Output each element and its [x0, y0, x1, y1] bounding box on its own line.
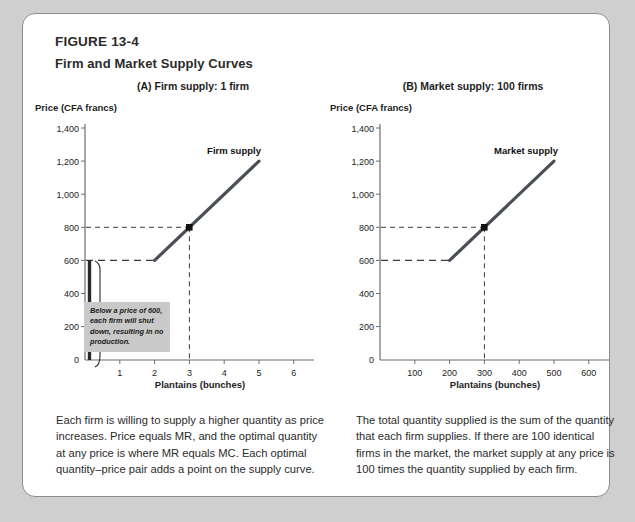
- svg-text:3: 3: [187, 368, 192, 378]
- panel-b-caption: The total quantity supplied is the sum o…: [356, 412, 618, 478]
- figure-number: FIGURE 13-4: [55, 34, 139, 49]
- panel-a-curve-label: Firm supply: [207, 145, 262, 156]
- panel-b-chart: 1,400 1,200 1,000 800 600 400 200 0: [324, 114, 624, 376]
- svg-text:800: 800: [359, 223, 374, 233]
- figure-card: FIGURE 13-4 Firm and Market Supply Curve…: [22, 13, 610, 497]
- svg-text:200: 200: [64, 322, 79, 332]
- svg-text:0: 0: [74, 355, 79, 365]
- panel-a-header: (A) Firm supply: 1 firm: [43, 80, 343, 92]
- svg-text:1,200: 1,200: [56, 157, 79, 167]
- panel-a-supply-curve: [155, 161, 259, 260]
- svg-text:100: 100: [407, 368, 422, 378]
- svg-text:4: 4: [222, 368, 227, 378]
- panel-a-note-box: Below a price of 600, each firm will shu…: [84, 302, 170, 352]
- panel-a-data-point: [186, 224, 193, 231]
- svg-text:200: 200: [442, 368, 457, 378]
- panel-a-y-axis-title: Price (CFA francs): [35, 102, 117, 113]
- svg-text:1,000: 1,000: [351, 190, 374, 200]
- svg-text:5: 5: [256, 368, 261, 378]
- svg-text:1,400: 1,400: [56, 124, 79, 134]
- svg-text:1,400: 1,400: [351, 124, 374, 134]
- figure-title: Firm and Market Supply Curves: [55, 56, 253, 71]
- panel-b-curve-label: Market supply: [494, 145, 559, 156]
- svg-text:200: 200: [359, 322, 374, 332]
- svg-text:1,200: 1,200: [351, 157, 374, 167]
- svg-text:6: 6: [291, 368, 296, 378]
- panel-b-y-axis-title: Price (CFA francs): [330, 102, 412, 113]
- svg-text:400: 400: [64, 289, 79, 299]
- svg-text:800: 800: [64, 223, 79, 233]
- panel-a-x-ticks: [120, 360, 294, 364]
- panel-a-x-axis-title: Plantains (bunches): [85, 379, 315, 390]
- panel-b-header: (B) Market supply: 100 firms: [323, 80, 623, 92]
- panel-b-x-ticks: [415, 360, 589, 364]
- panel-a-y-ticks: 1,400 1,200 1,000 800 600 400 200 0: [56, 124, 79, 366]
- svg-text:500: 500: [546, 368, 561, 378]
- svg-text:1: 1: [117, 368, 122, 378]
- svg-text:0: 0: [369, 355, 374, 365]
- svg-text:600: 600: [64, 256, 79, 266]
- svg-text:400: 400: [512, 368, 527, 378]
- svg-text:1,000: 1,000: [56, 190, 79, 200]
- panel-b-x-axis-title: Plantains (bunches): [380, 379, 610, 390]
- panel-b-supply-curve: [450, 161, 554, 260]
- panel-b-y-ticks: 1,400 1,200 1,000 800 600 400 200 0: [351, 124, 374, 366]
- svg-text:400: 400: [359, 289, 374, 299]
- svg-text:600: 600: [359, 256, 374, 266]
- panel-b-guide-800: [381, 227, 484, 360]
- svg-text:600: 600: [581, 368, 596, 378]
- svg-text:300: 300: [477, 368, 492, 378]
- svg-text:2: 2: [152, 368, 157, 378]
- figure-page: FIGURE 13-4 Firm and Market Supply Curve…: [0, 0, 635, 522]
- panel-a-chart: 1,400 1,200 1,000 800 600 400 200 0: [29, 114, 329, 376]
- panel-a-caption: Each firm is willing to supply a higher …: [56, 412, 324, 478]
- panel-a-note-text: Below a price of 600, each firm will shu…: [90, 306, 164, 347]
- panel-b-data-point: [481, 224, 488, 231]
